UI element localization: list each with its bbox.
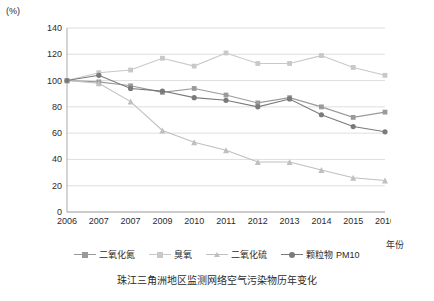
series-颗粒物 PM10 bbox=[64, 73, 387, 135]
x-tick-label: 2007 bbox=[121, 216, 141, 226]
chart-figure: (%) 年份 020406080100120140200620072007200… bbox=[0, 0, 434, 301]
series-臭氧 bbox=[65, 51, 388, 83]
legend-item-4[interactable]: 颗粒物 PM10 bbox=[281, 248, 359, 261]
legend-marker-icon bbox=[149, 251, 171, 259]
y-axis-unit-label: (%) bbox=[6, 6, 20, 16]
legend-marker-icon bbox=[206, 251, 228, 259]
x-tick-label: 2011 bbox=[216, 216, 235, 226]
x-tick-label: 2010 bbox=[184, 216, 204, 226]
legend-item-label: 颗粒物 PM10 bbox=[306, 248, 359, 261]
legend-item-label: 二氧化氮 bbox=[99, 248, 135, 261]
x-tick-label: 2009 bbox=[152, 216, 172, 226]
x-tick-label: 2014 bbox=[311, 216, 331, 226]
y-tick-label: 100 bbox=[47, 76, 62, 86]
y-tick-label: 40 bbox=[52, 154, 62, 164]
legend-item-label: 二氧化硫 bbox=[231, 248, 267, 261]
y-tick-label: 120 bbox=[47, 49, 62, 59]
x-tick-label: 2013 bbox=[280, 216, 300, 226]
chart-plot-area: 0204060801001201402006200720072009201020… bbox=[41, 22, 391, 234]
legend-marker-icon bbox=[281, 251, 303, 259]
x-tick-label: 2016 bbox=[375, 216, 391, 226]
y-tick-label: 60 bbox=[52, 128, 62, 138]
chart-caption: 珠江三角洲地区监测网络空气污染物历年变化 bbox=[0, 272, 434, 287]
legend-item-2[interactable]: 臭氧 bbox=[149, 248, 192, 261]
y-tick-label: 20 bbox=[52, 181, 62, 191]
x-tick-label: 2015 bbox=[343, 216, 363, 226]
legend-marker-icon bbox=[74, 251, 96, 259]
legend-item-3[interactable]: 二氧化硫 bbox=[206, 248, 267, 261]
x-tick-label: 2012 bbox=[248, 216, 268, 226]
y-tick-label: 80 bbox=[52, 102, 62, 112]
x-tick-label: 2006 bbox=[57, 216, 77, 226]
y-tick-label: 140 bbox=[47, 23, 62, 33]
legend-item-label: 臭氧 bbox=[174, 248, 192, 261]
chart-legend: 二氧化氮臭氧二氧化硫颗粒物 PM10 bbox=[0, 248, 434, 261]
x-tick-label: 2007 bbox=[89, 216, 109, 226]
legend-item-1[interactable]: 二氧化氮 bbox=[74, 248, 135, 261]
